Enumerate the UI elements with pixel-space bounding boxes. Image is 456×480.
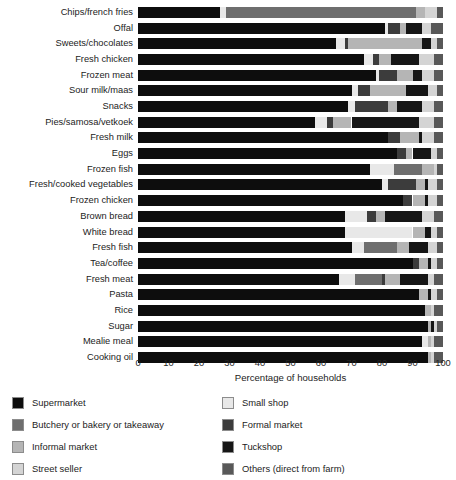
bar-segment <box>413 148 431 159</box>
bar-segment <box>138 132 388 143</box>
legend-column-right: Small shopFormal marketTuckshopOthers (d… <box>222 392 447 480</box>
bar-segment <box>138 70 376 81</box>
bar-segment <box>422 38 431 49</box>
bar-segment <box>138 85 352 96</box>
bar-row <box>138 336 443 347</box>
y-axis-label: Brown bread <box>0 211 133 222</box>
bar-segment <box>138 7 220 18</box>
bar-segment <box>138 54 364 65</box>
bar-segment <box>434 305 443 316</box>
bar-segment <box>138 289 419 300</box>
bar-row <box>138 70 443 81</box>
legend-swatch-icon <box>222 419 234 431</box>
bar-segment <box>388 23 400 34</box>
bar-segment <box>428 242 437 253</box>
bar-row <box>138 274 443 285</box>
bar-segment <box>352 117 419 128</box>
x-axis-tick-label: 10 <box>163 358 173 368</box>
bar-segment <box>422 211 434 222</box>
bar-segment <box>409 242 427 253</box>
bar-row <box>138 227 443 238</box>
bar-segment <box>138 164 370 175</box>
bar-segment <box>437 148 443 159</box>
y-axis-label: Frozen fish <box>0 164 133 175</box>
x-axis-tick-label: 0 <box>135 358 140 368</box>
bar-segment <box>422 132 434 143</box>
bar-segment <box>138 148 397 159</box>
bar-segment <box>422 23 431 34</box>
y-axis-label: Mealie meal <box>0 336 133 347</box>
bar-segment <box>138 211 345 222</box>
bar-row <box>138 242 443 253</box>
bar-segment <box>437 7 443 18</box>
bar-segment <box>437 179 443 190</box>
bar-segment <box>138 258 413 269</box>
y-axis-label: Frozen meat <box>0 70 133 81</box>
bar-segment <box>422 164 434 175</box>
bar-segment <box>388 179 415 190</box>
bar-row <box>138 195 443 206</box>
bar-segment <box>370 85 407 96</box>
y-axis-label: White bread <box>0 227 133 238</box>
bar-row <box>138 211 443 222</box>
legend-item[interactable]: Others (direct from farm) <box>222 458 447 479</box>
bar-segment <box>434 211 443 222</box>
x-axis-tick-label: 50 <box>285 358 295 368</box>
x-axis-tick-label: 30 <box>224 358 234 368</box>
bar-segment <box>437 289 443 300</box>
bar-segment <box>434 132 443 143</box>
bar-segment <box>434 274 443 285</box>
y-axis-label: Snacks <box>0 101 133 112</box>
legend-item[interactable]: Supermarket <box>12 392 227 413</box>
bar-segment <box>388 132 400 143</box>
bar-row <box>138 101 443 112</box>
x-axis-tick-label: 70 <box>346 358 356 368</box>
bar-segment <box>397 148 406 159</box>
bar-segment <box>437 321 443 332</box>
bar-segment <box>376 211 385 222</box>
bar-segment <box>403 195 412 206</box>
x-axis-tick-label: 60 <box>316 358 326 368</box>
stacked-bar-chart-figure: Chips/french friesOffalSweets/chocolates… <box>0 0 456 480</box>
bar-segment <box>138 179 382 190</box>
bar-segment <box>428 85 437 96</box>
bar-segment <box>416 179 425 190</box>
bar-segment <box>138 242 352 253</box>
legend-label: Informal market <box>32 441 97 452</box>
bar-segment <box>138 117 315 128</box>
legend-label: Street seller <box>32 463 82 474</box>
bar-segment <box>138 23 385 34</box>
bar-segment <box>333 117 351 128</box>
bar-segment <box>397 242 409 253</box>
bar-segment <box>437 242 443 253</box>
legend-item[interactable]: Street seller <box>12 458 227 479</box>
bar-segment <box>138 38 336 49</box>
bar-segment <box>434 54 443 65</box>
bar-row <box>138 258 443 269</box>
bar-row <box>138 54 443 65</box>
legend-item[interactable]: Informal market <box>12 436 227 457</box>
bar-segment <box>394 164 421 175</box>
plot-area <box>138 0 443 360</box>
y-axis-label: Sweets/chocolates <box>0 38 133 49</box>
bar-segment <box>379 54 391 65</box>
bar-row <box>138 117 443 128</box>
bar-segment <box>437 38 443 49</box>
bar-row <box>138 85 443 96</box>
legend-item[interactable]: Small shop <box>222 392 447 413</box>
y-axis-label: Sour milk/maas <box>0 85 133 96</box>
legend-swatch-icon <box>12 441 24 453</box>
legend-item[interactable]: Tuckshop <box>222 436 447 457</box>
chart-legend: SupermarketButchery or bakery or takeawa… <box>0 392 456 478</box>
bar-segment <box>422 101 434 112</box>
legend-item[interactable]: Formal market <box>222 414 447 435</box>
x-axis-title: Percentage of households <box>138 372 443 383</box>
y-axis-label: Cooking oil <box>0 352 133 363</box>
bar-segment <box>416 7 425 18</box>
bar-segment <box>434 336 443 347</box>
bar-segment <box>413 195 425 206</box>
bar-row <box>138 23 443 34</box>
bar-segment <box>138 101 348 112</box>
bar-row <box>138 7 443 18</box>
legend-item[interactable]: Butchery or bakery or takeaway <box>12 414 227 435</box>
